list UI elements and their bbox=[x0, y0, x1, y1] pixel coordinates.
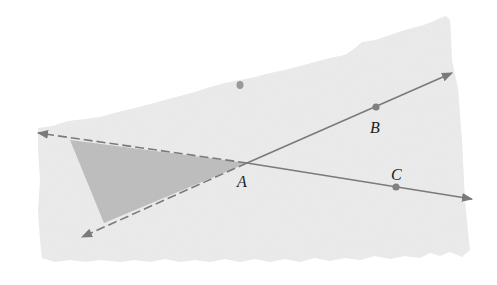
geometry-diagram: A B C bbox=[0, 0, 497, 285]
point-b bbox=[372, 103, 379, 110]
label-c: C bbox=[391, 166, 402, 183]
stray-mark bbox=[237, 81, 244, 89]
label-a: A bbox=[236, 173, 247, 190]
label-b: B bbox=[370, 119, 380, 136]
shaded-region bbox=[38, 16, 470, 262]
point-c bbox=[392, 183, 399, 190]
